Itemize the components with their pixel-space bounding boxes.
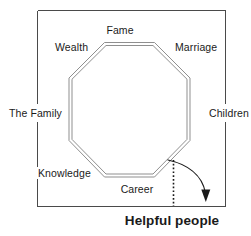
label-children: Children	[208, 105, 250, 121]
label-the-family: The Family	[8, 105, 63, 121]
label-knowledge: Knowledge	[36, 167, 93, 179]
octagon-shape	[69, 43, 190, 178]
label-fame: Fame	[104, 24, 135, 36]
diagram-canvas: Fame Marriage Children Helpful people Ca…	[0, 0, 251, 236]
label-wealth: Wealth	[54, 41, 89, 53]
curved-arrow	[168, 160, 210, 202]
label-career: Career	[119, 183, 156, 195]
octagon-inner-outline	[72, 46, 187, 175]
curved-arrow-head	[201, 190, 210, 203]
label-marriage: Marriage	[174, 41, 218, 53]
label-helpful-people: Helpful people	[123, 213, 221, 228]
octagon-outer-outline	[69, 43, 190, 178]
